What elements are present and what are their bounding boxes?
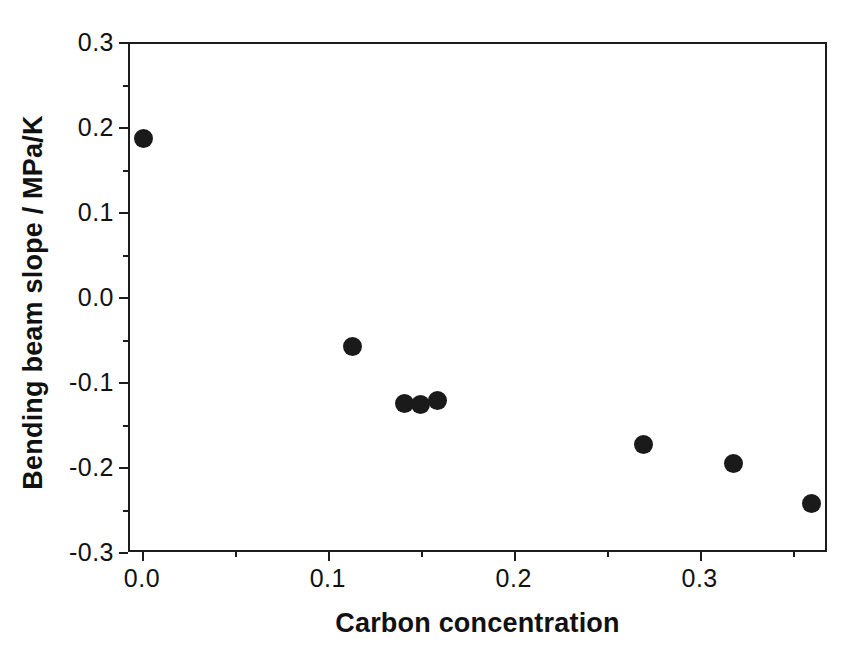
x-axis-tick	[514, 552, 516, 561]
y-axis-minor-tick	[123, 85, 128, 87]
x-axis-minor-tick	[421, 552, 423, 557]
y-axis-tick-label: -0.3	[69, 538, 114, 567]
x-axis-tick-label: 0.2	[496, 564, 532, 593]
y-axis-minor-tick	[123, 255, 128, 257]
data-point	[134, 129, 153, 148]
y-axis-title: Bending beam slope / MPa/K	[18, 43, 49, 563]
y-axis-tick	[119, 127, 128, 129]
x-axis-tick-label: 0.0	[124, 564, 160, 593]
data-point	[634, 435, 653, 454]
x-axis-minor-tick	[793, 552, 795, 557]
x-axis-title: Carbon concentration	[128, 608, 827, 639]
data-point	[724, 454, 743, 473]
x-axis-tick-label: 0.1	[310, 564, 346, 593]
x-axis-tick	[700, 552, 702, 561]
x-axis-tick	[328, 552, 330, 561]
y-axis-tick	[119, 467, 128, 469]
plot-area: 0.30.20.10.0-0.1-0.2-0.3 0.00.10.20.3	[128, 42, 827, 552]
y-axis-tick-label: 0.2	[78, 113, 114, 142]
y-axis-tick	[119, 297, 128, 299]
y-axis-minor-tick	[123, 425, 128, 427]
data-point	[802, 494, 821, 513]
y-axis-tick-label: 0.0	[78, 283, 114, 312]
x-axis-tick-label: 0.3	[682, 564, 718, 593]
y-axis-tick	[119, 212, 128, 214]
y-axis-tick	[119, 382, 128, 384]
x-axis-minor-tick	[607, 552, 609, 557]
data-point	[343, 337, 362, 356]
y-axis-minor-tick	[123, 340, 128, 342]
y-axis-minor-tick	[123, 170, 128, 172]
y-axis-tick-label: -0.1	[69, 368, 114, 397]
x-axis-tick	[142, 552, 144, 561]
data-point	[428, 391, 447, 410]
y-axis-tick	[119, 552, 128, 554]
x-axis-minor-tick	[235, 552, 237, 557]
chart-figure: 0.30.20.10.0-0.1-0.2-0.3 0.00.10.20.3 Ca…	[0, 0, 854, 662]
y-axis-tick-label: 0.1	[78, 198, 114, 227]
y-axis-tick-label: 0.3	[78, 28, 114, 57]
y-axis-tick	[119, 42, 128, 44]
y-axis-tick-label: -0.2	[69, 453, 114, 482]
y-axis-minor-tick	[123, 510, 128, 512]
